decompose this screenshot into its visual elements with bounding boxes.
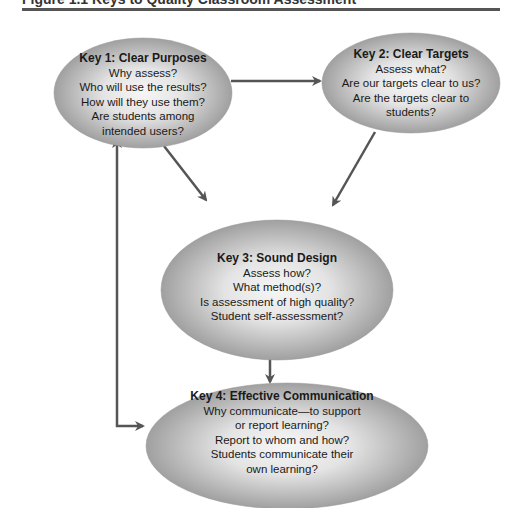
node-key2-line: students? xyxy=(320,105,502,120)
node-key4-line: Why communicate—to support xyxy=(172,404,392,419)
edge-key1-to-key3 xyxy=(164,146,206,200)
arrow-icon xyxy=(164,146,206,200)
node-key3-line: Student self-assessment? xyxy=(172,309,382,324)
node-key3-text: Key 3: Sound Design Assess how? What met… xyxy=(172,251,382,324)
node-key3-line: Is assessment of high quality? xyxy=(172,295,382,310)
node-key2-line: Assess what? xyxy=(320,62,502,77)
node-key3-line: What method(s)? xyxy=(172,280,382,295)
node-key2-text: Key 2: Clear Targets Assess what? Are ou… xyxy=(320,47,502,120)
node-key4-line: or report learning? xyxy=(172,418,392,433)
arrow-icon xyxy=(333,132,375,205)
node-key1-line: Who will use the results? xyxy=(53,80,233,95)
edge-key2-to-key3 xyxy=(333,132,375,205)
node-key1-title: Key 1: Clear Purposes xyxy=(53,51,233,66)
node-key4-line: own learning? xyxy=(172,462,392,477)
node-key1-line: Why assess? xyxy=(53,66,233,81)
edge-key1-key4-bidirectional xyxy=(112,136,143,426)
arrow-icon xyxy=(117,139,143,426)
node-key4-line: Students communicate their xyxy=(172,447,392,462)
node-key1-line: intended users? xyxy=(53,124,233,139)
node-key2-line: Are the targets clear to xyxy=(320,91,502,106)
node-key4-text: Key 4: Effective Communication Why commu… xyxy=(172,389,392,476)
node-key3-line: Assess how? xyxy=(172,266,382,281)
node-key2-title: Key 2: Clear Targets xyxy=(320,47,502,62)
node-key1-text: Key 1: Clear Purposes Why assess? Who wi… xyxy=(53,51,233,138)
node-key1-line: How will they use them? xyxy=(53,95,233,110)
node-key1-line: Are students among xyxy=(53,109,233,124)
node-key3-title: Key 3: Sound Design xyxy=(172,251,382,266)
node-key4-title: Key 4: Effective Communication xyxy=(172,389,392,404)
node-key2-line: Are our targets clear to us? xyxy=(320,76,502,91)
node-key4-line: Report to whom and how? xyxy=(172,433,392,448)
